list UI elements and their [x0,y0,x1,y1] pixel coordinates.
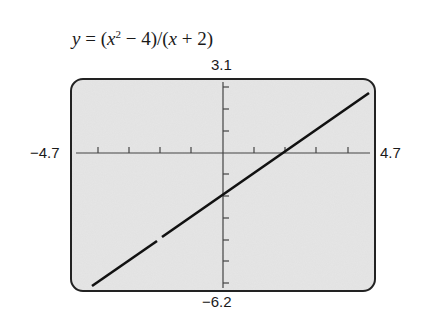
calculator-screen [0,0,425,328]
